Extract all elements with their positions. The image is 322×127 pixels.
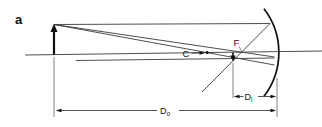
- di-left-arrowhead-icon: [234, 95, 240, 99]
- di-right-arrowhead-icon: [271, 95, 277, 99]
- object-distance-label: Do: [160, 106, 171, 117]
- concave-mirror-arc: [264, 9, 279, 97]
- optical-axis: [25, 51, 322, 55]
- do-right-arrowhead-icon: [271, 109, 277, 113]
- center-of-curvature-label: C: [183, 48, 190, 59]
- optics-figure: a C F Di: [0, 0, 322, 127]
- image-distance-subscript: i: [251, 96, 252, 103]
- do-left-arrowhead-icon: [56, 109, 62, 113]
- ray-diagram-canvas: a C F Di: [0, 0, 322, 127]
- object-distance-subscript: o: [167, 110, 171, 117]
- focal-point-label: F: [234, 37, 240, 48]
- ray-parallel-incident: [54, 24, 270, 25]
- ray-through-center-incident: [54, 25, 275, 66]
- center-of-curvature-point: [206, 51, 209, 54]
- image-distance-label: Di: [245, 92, 253, 103]
- focal-point-leader-line: [239, 47, 242, 51]
- panel-letter: a: [15, 12, 23, 27]
